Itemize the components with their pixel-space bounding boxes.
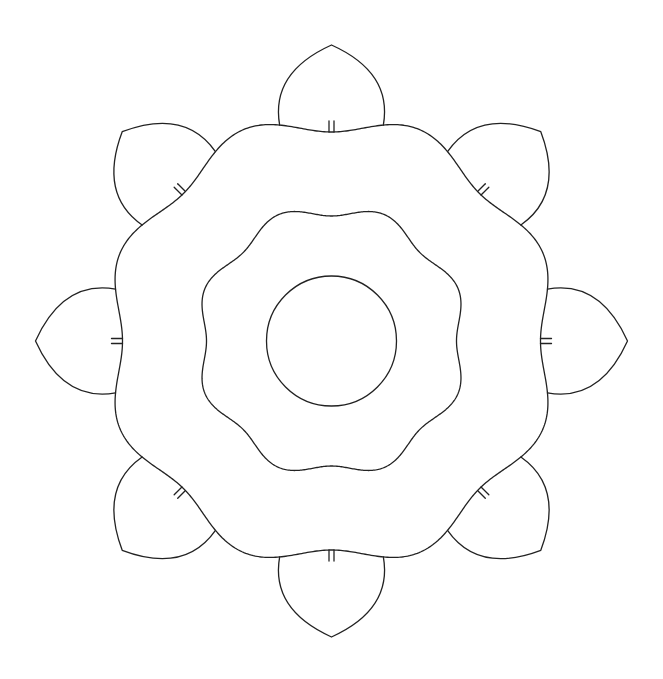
petal-7 [448, 457, 550, 559]
tick-mark [178, 184, 186, 192]
middle-wavy-ring [202, 212, 461, 471]
petal-5 [114, 457, 216, 559]
flower-diagram [0, 0, 663, 679]
tick-mark [478, 184, 486, 192]
tick-mark [174, 487, 182, 495]
petal-6 [278, 557, 384, 637]
tick-mark [478, 491, 486, 499]
tick-mark [178, 491, 186, 499]
tick-mark [481, 187, 489, 195]
petal-1 [448, 123, 550, 225]
petal-0 [547, 288, 627, 394]
tick-marks-group [112, 121, 552, 561]
inner-circle [267, 276, 397, 406]
petal-3 [114, 123, 216, 225]
petal-2 [278, 45, 384, 125]
petal-4 [36, 288, 116, 394]
petals-group [36, 45, 628, 637]
outer-wavy-ring [115, 125, 548, 558]
tick-mark [174, 187, 182, 195]
tick-mark [481, 487, 489, 495]
